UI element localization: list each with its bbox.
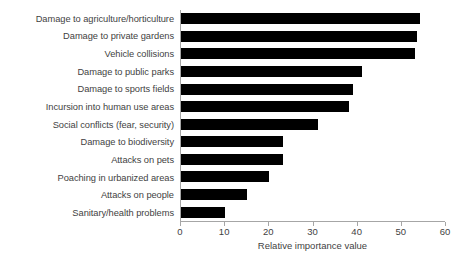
- category-label: Attacks on pets: [111, 155, 178, 165]
- category-label: Vehicle collisions: [105, 49, 178, 59]
- x-tick-label: 10: [219, 226, 230, 238]
- category-label: Incursion into human use areas: [46, 102, 178, 112]
- x-tick-label: 60: [440, 226, 451, 238]
- category-label: Social conflicts (fear, security): [53, 120, 178, 130]
- bar-row: [181, 171, 445, 182]
- bar-series: [181, 10, 445, 221]
- x-tick-label: 40: [351, 226, 362, 238]
- bar-row: [181, 189, 445, 200]
- category-label: Damage to agriculture/horticulture: [36, 14, 178, 24]
- x-tick-label: 0: [177, 226, 182, 238]
- category-axis: Damage to agriculture/horticulture Damag…: [0, 10, 178, 222]
- bar-row: [181, 154, 445, 165]
- category-label: Poaching in urbanized areas: [58, 173, 179, 183]
- bar-row: [181, 84, 445, 95]
- bar-row: [181, 48, 445, 59]
- bar: [181, 207, 225, 218]
- bar-row: [181, 119, 445, 130]
- category-label: Attacks on people: [101, 190, 178, 200]
- x-tick-label: 50: [396, 226, 407, 238]
- bar-row: [181, 13, 445, 24]
- category-label: Damage to private gardens: [63, 31, 178, 41]
- bar-row: [181, 31, 445, 42]
- bar: [181, 119, 318, 130]
- bar: [181, 154, 283, 165]
- bar: [181, 84, 353, 95]
- bar: [181, 136, 283, 147]
- x-tick-label: 30: [307, 226, 318, 238]
- bar: [181, 31, 417, 42]
- bar-row: [181, 136, 445, 147]
- bar: [181, 189, 247, 200]
- category-label: Damage to biodiversity: [81, 137, 178, 147]
- bar: [181, 66, 362, 77]
- x-axis-tick-labels: 0102030405060: [180, 226, 445, 240]
- category-label: Damage to sports fields: [77, 84, 178, 94]
- bar-row: [181, 207, 445, 218]
- bar: [181, 171, 269, 182]
- bar-chart: Damage to agriculture/horticulture Damag…: [0, 0, 464, 261]
- x-axis-title: Relative importance value: [180, 240, 445, 252]
- bar-row: [181, 101, 445, 112]
- category-label: Damage to public parks: [77, 67, 178, 77]
- category-label: Sanitary/health problems: [72, 208, 178, 218]
- x-tick-label: 20: [263, 226, 274, 238]
- plot-area: [180, 10, 445, 222]
- bar-row: [181, 66, 445, 77]
- bar: [181, 48, 415, 59]
- bar: [181, 13, 420, 24]
- bar: [181, 101, 349, 112]
